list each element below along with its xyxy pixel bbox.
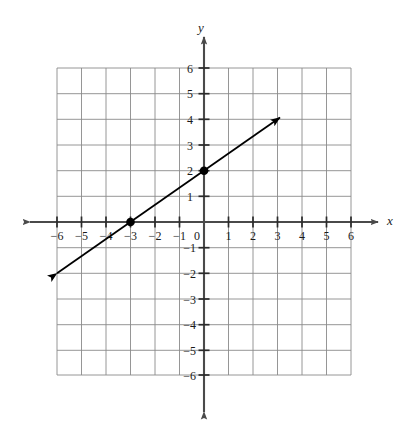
x-tick-label: 2 (250, 229, 256, 243)
x-tick-label: 6 (348, 229, 354, 243)
y-tick-label: −6 (183, 369, 196, 383)
x-tick-label: 1 (226, 229, 232, 243)
plotted-line-series (57, 118, 280, 274)
y-tick-label: 3 (187, 139, 193, 153)
y-tick-label: −4 (183, 318, 196, 332)
x-axis-tick-labels: −6 −5 −4 −3 −2 −1 0 1 2 3 4 5 6 (51, 229, 354, 243)
x-tick-label: −2 (149, 229, 162, 243)
line-graph (57, 118, 280, 274)
x-axis-label: x (386, 213, 393, 228)
point-x-intercept (126, 218, 135, 227)
x-tick-label: 5 (324, 229, 330, 243)
x-tick-label: −6 (51, 229, 64, 243)
x-tick-label: −3 (124, 229, 137, 243)
y-axis-label: y (196, 20, 204, 35)
x-tick-label: 3 (275, 229, 281, 243)
coordinate-plane-graph: −6 −5 −4 −3 −2 −1 0 1 2 3 4 5 6 6 5 4 3 … (0, 0, 410, 428)
y-tick-label: 1 (187, 190, 193, 204)
y-tick-label: 6 (187, 62, 193, 76)
y-tick-label: −3 (183, 293, 196, 307)
x-tick-label: −5 (75, 229, 88, 243)
x-tick-label: 4 (299, 229, 305, 243)
y-tick-label: −2 (183, 267, 196, 281)
y-tick-label: 4 (187, 113, 193, 127)
y-tick-label: 5 (187, 87, 193, 101)
y-tick-label: −5 (183, 344, 196, 358)
y-tick-label: −1 (183, 241, 196, 255)
point-y-intercept (200, 166, 209, 175)
graph-canvas: −6 −5 −4 −3 −2 −1 0 1 2 3 4 5 6 6 5 4 3 … (0, 0, 410, 428)
y-tick-label: 2 (187, 164, 193, 178)
